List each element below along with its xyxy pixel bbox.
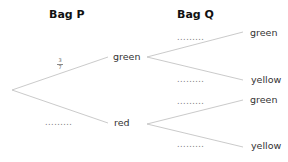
probability-p-green: 3 7 [57,58,63,70]
probability-q-ry-blank[interactable]: ......... [177,141,204,149]
outcome-q-gg: green [250,28,277,38]
outcome-p-green: green [113,52,140,62]
bag-p-header: Bag P [49,8,85,21]
fraction-numerator: 3 [58,57,61,63]
probability-q-rg-blank[interactable]: ......... [177,98,204,106]
bag-q-header: Bag Q [177,8,214,21]
outcome-p-red: red [114,118,130,128]
outcome-q-ry: yellow [251,141,281,151]
tree-branches [0,0,288,162]
outcome-q-rg: green [250,95,277,105]
probability-q-gg-blank[interactable]: ......... [177,34,204,42]
fraction-denominator: 7 [58,64,61,70]
probability-q-gy-blank[interactable]: ......... [177,76,204,84]
probability-p-red-blank[interactable]: ......... [45,119,72,127]
outcome-q-gy: yellow [251,75,281,85]
